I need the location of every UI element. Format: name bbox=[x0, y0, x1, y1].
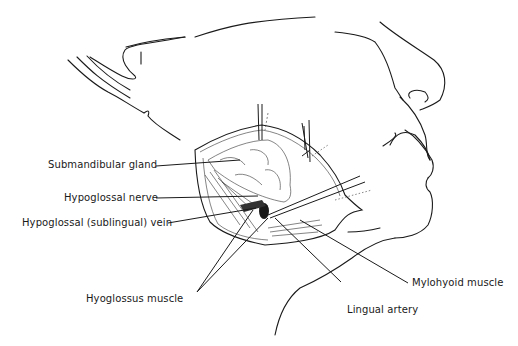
label-hypoglossal-nerve: Hypoglossal nerve bbox=[64, 192, 158, 203]
head-outline bbox=[68, 17, 445, 335]
label-hypoglossal-vein: Hypoglossal (sublingual) vein bbox=[22, 217, 172, 228]
label-hyoglossus-muscle: Hyoglossus muscle bbox=[86, 293, 183, 304]
label-submandibular-gland: Submandibular gland bbox=[48, 159, 157, 170]
retractors bbox=[258, 104, 372, 218]
label-lingual-artery: Lingual artery bbox=[347, 304, 418, 315]
label-mylohyoid-muscle: Mylohyoid muscle bbox=[412, 277, 503, 288]
surgical-field bbox=[195, 125, 362, 245]
anatomical-illustration bbox=[0, 0, 518, 346]
